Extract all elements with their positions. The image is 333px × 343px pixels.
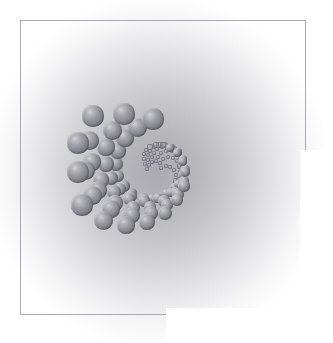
shaded-sphere [178,157,187,166]
shaded-sphere [67,161,88,182]
small-ring-sphere [161,157,165,161]
small-ring-sphere [159,151,163,155]
small-ring-sphere [159,166,162,169]
shaded-sphere [171,194,183,206]
small-ring-sphere [142,157,146,161]
small-ring-sphere [143,162,147,166]
figure-frame [20,20,306,315]
small-ring-sphere [153,142,159,148]
small-ring-sphere [152,151,156,155]
shaded-sphere [98,156,113,171]
small-ring-sphere [156,155,160,159]
shaded-sphere [142,108,163,129]
small-ring-sphere [172,168,176,172]
small-ring-sphere [145,167,148,170]
shaded-sphere [173,149,181,157]
small-ring-sphere [147,163,150,166]
shaded-sphere [180,167,190,177]
small-ring-sphere [158,161,161,164]
frame-mask-bottom [166,308,333,343]
small-ring-sphere [146,153,150,157]
small-ring-sphere [146,158,150,162]
shaded-sphere [113,103,134,124]
shaded-sphere [97,138,114,155]
small-ring-sphere [147,144,152,149]
shaded-sphere [71,194,92,215]
spiral-sphere-figure [0,0,333,343]
small-ring-sphere [154,159,157,162]
frame-mask-right [300,150,333,343]
shaded-sphere [139,214,154,229]
shaded-sphere [67,132,88,153]
shaded-sphere [158,206,172,220]
shaded-sphere [178,180,189,191]
shaded-sphere [117,216,134,233]
shaded-sphere [82,105,103,126]
shaded-sphere [94,211,113,230]
small-ring-sphere [166,155,170,159]
background-haze [0,0,333,343]
small-ring-sphere [150,160,153,163]
small-ring-sphere [150,155,154,159]
